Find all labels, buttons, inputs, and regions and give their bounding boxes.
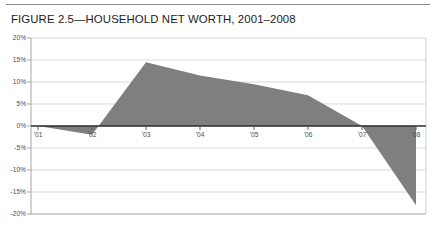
x-tick-label-04: '04: [189, 131, 211, 138]
area-chart-svg: [0, 30, 436, 225]
y-tick-label-neg15: -15%: [0, 188, 26, 195]
y-tick-label-5: 5%: [0, 100, 26, 107]
x-tick-label-01: '01: [27, 131, 49, 138]
figure-container: FIGURE 2.5—HOUSEHOLD NET WORTH, 2001–200…: [0, 0, 436, 227]
x-tick-label-02: '02: [81, 131, 103, 138]
y-tick-label-neg20: -20%: [0, 210, 26, 217]
y-tick-label-20: 20%: [0, 34, 26, 41]
top-horizontal-rule: [6, 4, 430, 5]
y-tick-label-neg5: -5%: [0, 144, 26, 151]
y-tick-label-0: 0%: [0, 122, 26, 129]
figure-title: FIGURE 2.5—HOUSEHOLD NET WORTH, 2001–200…: [11, 13, 296, 25]
x-tick-label-08: '08: [405, 131, 427, 138]
x-tick-label-03: '03: [135, 131, 157, 138]
y-tick-label-10: 10%: [0, 78, 26, 85]
x-tick-label-05: '05: [243, 131, 265, 138]
x-tick-label-06: '06: [297, 131, 319, 138]
y-tick-label-neg10: -10%: [0, 166, 26, 173]
y-tick-label-15: 15%: [0, 56, 26, 63]
y-tick-marks: [27, 38, 31, 214]
x-tick-label-07: '07: [351, 131, 373, 138]
chart-plot-area: 20% 15% 10% 5% 0% -5% -10% -15% -20% '01…: [0, 30, 436, 225]
